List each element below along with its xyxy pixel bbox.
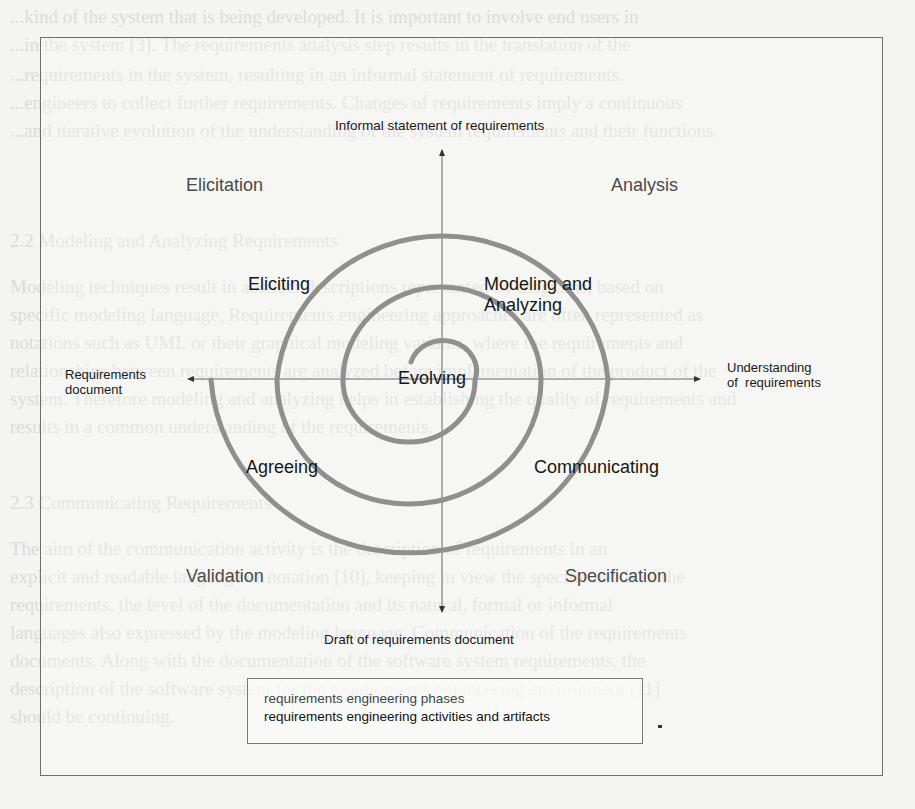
stray-mark bbox=[658, 725, 662, 728]
label-informal-statement: Informal statement of requirements bbox=[335, 118, 544, 133]
activity-evolving: Evolving bbox=[398, 368, 466, 389]
label-line: Requirements bbox=[65, 367, 146, 382]
phase-elicitation: Elicitation bbox=[186, 175, 263, 196]
label-line: Understanding bbox=[727, 360, 821, 375]
legend-box: requirements engineering phases requirem… bbox=[247, 678, 643, 744]
label-line: Analyzing bbox=[484, 295, 592, 316]
phase-validation: Validation bbox=[186, 566, 264, 587]
phase-analysis: Analysis bbox=[611, 175, 678, 196]
activity-eliciting: Eliciting bbox=[248, 274, 310, 295]
label-line: Modeling and bbox=[484, 274, 592, 295]
legend-phases: requirements engineering phases bbox=[264, 691, 464, 706]
label-requirements-document: Requirements document bbox=[65, 367, 146, 397]
activity-modeling-analyzing: Modeling and Analyzing bbox=[484, 274, 592, 316]
label-line: document bbox=[65, 382, 146, 397]
legend-activities: requirements engineering activities and … bbox=[264, 709, 550, 724]
label-line: of requirements bbox=[727, 375, 821, 390]
phase-specification: Specification bbox=[565, 566, 667, 587]
label-understanding: Understanding of requirements bbox=[727, 360, 821, 390]
label-draft-document: Draft of requirements document bbox=[324, 632, 514, 647]
activity-communicating: Communicating bbox=[534, 457, 659, 478]
activity-agreeing: Agreeing bbox=[246, 457, 318, 478]
